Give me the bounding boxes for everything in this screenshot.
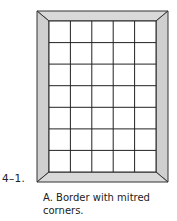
figure-number: 4–1. [2, 172, 25, 184]
caption-line-2: corners. [43, 204, 173, 217]
border-left [37, 11, 49, 182]
border-bottom [37, 172, 168, 182]
figure-caption: A. Border with mitred corners. [43, 191, 173, 217]
caption-line-1: A. Border with mitred [43, 191, 173, 204]
border-top [37, 11, 168, 21]
border-right [156, 11, 168, 182]
grid-field [49, 21, 156, 172]
mitred-border-diagram [0, 0, 177, 221]
